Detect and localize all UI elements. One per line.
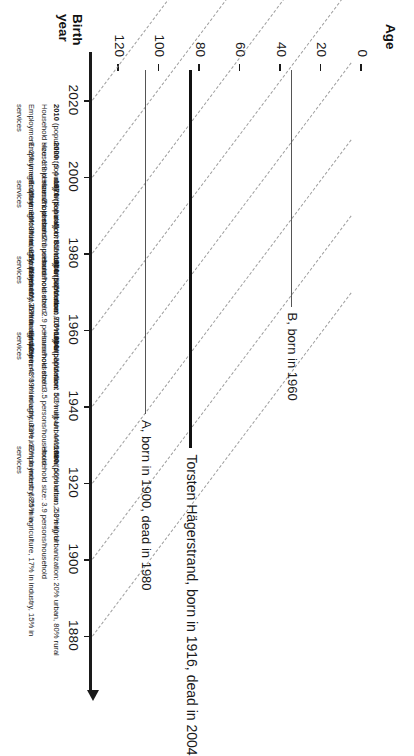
life-line-label-1916: Torsten Hägerstrand, born in 1916, dead … [184, 454, 200, 755]
age-tick-60 [239, 64, 241, 71]
life-line-1916 [189, 70, 192, 448]
decade-line-2: Household size: 3.9 persons/household [37, 446, 49, 678]
life-line-1960 [291, 70, 292, 307]
birth-year-axis-title-line: Birth [70, 14, 84, 46]
decade-year: 2000 [52, 142, 61, 159]
birth-year-tick-label-1940: 1940 [66, 391, 81, 422]
age-tick-label-0: 0 [355, 49, 370, 57]
birth-year-tick-label-2020: 2020 [66, 85, 81, 116]
birth-year-tick-2020 [84, 100, 92, 102]
age-tick-label-120: 120 [112, 34, 127, 57]
decade-line-3: Employment: 68% in agriculture, 17% in i… [25, 446, 37, 678]
birth-year-axis-title-line: year [55, 14, 69, 46]
birth-year-tick-1900 [84, 559, 92, 561]
age-tick-label-40: 40 [274, 42, 289, 57]
cohort-diagonal-2000 [92, 0, 352, 177]
age-tick-label-20: 20 [314, 42, 329, 57]
decade-year: 2010 [52, 104, 61, 121]
cohort-diagonal-1940 [92, 63, 352, 407]
age-tick-20 [320, 64, 322, 71]
decade-line-4: services [13, 446, 25, 678]
age-tick-0 [361, 64, 363, 71]
birth-year-tick-1940 [84, 406, 92, 408]
cohort-diagonal-2020 [92, 0, 352, 101]
decade-year: 1970 [52, 180, 61, 197]
age-axis-title: Age [383, 24, 398, 50]
age-tick-label-100: 100 [152, 34, 167, 57]
birth-year-tick-label-2000: 2000 [66, 161, 81, 192]
age-tick-80 [199, 64, 201, 71]
decade-year: 1930 [52, 332, 61, 349]
birth-year-tick-label-1920: 1920 [66, 467, 81, 498]
birth-year-tick-label-1980: 1980 [66, 238, 81, 269]
life-line-label-1900: A, born in 1900, dead in 1980 [139, 420, 154, 591]
birth-year-tick-label-1880: 1880 [66, 620, 81, 651]
birth-year-tick-label-1960: 1960 [66, 314, 81, 345]
birth-year-axis-line [90, 52, 93, 690]
life-line-label-1960: B, born in 1960 [285, 313, 300, 401]
age-tick-100 [158, 64, 160, 71]
decade-year: 1880 [52, 446, 61, 463]
cohort-diagonal-1920 [92, 139, 352, 483]
decade-block-1880: 1880 (population: 2.3 milj) Urbanization… [13, 446, 62, 678]
age-tick-label-80: 80 [193, 42, 208, 57]
age-tick-40 [280, 64, 282, 71]
birth-year-axis-title: Birthyear [55, 14, 84, 46]
birth-year-tick-1980 [84, 253, 92, 255]
decade-line-1: 1880 (population: 2.3 milj) Urbanization… [50, 446, 62, 678]
life-line-1900 [145, 70, 146, 414]
birth-year-axis-arrow-icon [87, 690, 99, 701]
birth-year-tick-label-1900: 1900 [66, 544, 81, 575]
cohort-diagonal-1880 [92, 292, 352, 636]
cohort-diagonal-1900 [92, 216, 352, 560]
decade-year: 1950 [52, 256, 61, 273]
